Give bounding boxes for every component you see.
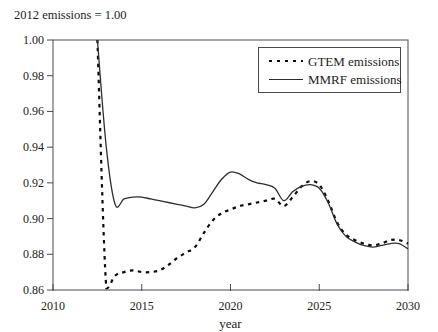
- y-tick-label: 0.86: [23, 283, 44, 297]
- legend-row-mmrf: MMRF emissions: [269, 72, 400, 87]
- y-tick-label: 0.92: [23, 176, 44, 190]
- legend-row-gtem: GTEM emissions: [269, 54, 400, 69]
- x-tick-label: 2030: [396, 299, 420, 313]
- y-tick-label: 0.96: [23, 104, 44, 118]
- gtem-dashed-line-sample: [269, 60, 303, 62]
- x-tick-label: 2010: [41, 299, 65, 313]
- y-tick-label: 0.88: [23, 247, 44, 261]
- x-axis-title: year: [53, 316, 408, 332]
- y-tick-label: 0.94: [23, 140, 44, 154]
- legend: GTEM emissions MMRF emissions: [258, 47, 401, 93]
- x-tick-label: 2025: [307, 299, 331, 313]
- mmrf-solid-line-sample: [269, 79, 303, 80]
- legend-label-mmrf: MMRF emissions: [308, 72, 402, 87]
- y-tick-label: 1.00: [23, 33, 44, 47]
- y-tick-label: 0.90: [23, 212, 44, 226]
- x-tick-label: 2015: [130, 299, 154, 313]
- figure: 2012 emissions = 1.00 0.860.880.900.920.…: [0, 0, 438, 332]
- legend-label-gtem: GTEM emissions: [308, 54, 399, 69]
- y-tick-label: 0.98: [23, 69, 44, 83]
- x-tick-label: 2020: [219, 299, 243, 313]
